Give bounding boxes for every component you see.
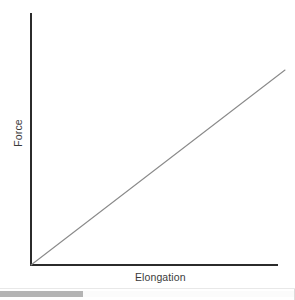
plot-area	[0, 0, 295, 288]
y-axis-label: Force	[12, 119, 24, 146]
chart-figure: Elongation Force	[0, 0, 295, 288]
horizontal-scrollbar[interactable]	[0, 288, 295, 299]
scrollbar-thumb[interactable]	[0, 291, 83, 297]
force-elongation-line	[31, 70, 285, 265]
scrollbar-end-marker	[294, 289, 295, 300]
x-axis-label: Elongation	[135, 271, 186, 283]
